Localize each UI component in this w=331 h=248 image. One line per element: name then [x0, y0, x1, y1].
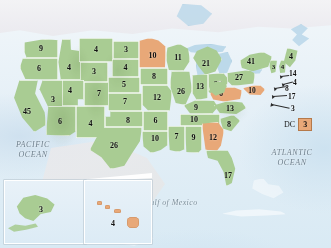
state-value-pennsylvania: 27	[235, 74, 243, 82]
delaware-callout[interactable]: 3	[291, 104, 295, 113]
dc-label: DC	[284, 120, 295, 129]
state-value-maine: 4	[289, 53, 293, 61]
dc-badge[interactable]: DC 3	[284, 118, 312, 131]
state-value-missouri: 12	[153, 94, 161, 102]
pacific-ocean-label: PACIFIC OCEAN	[2, 140, 64, 160]
state-value-michigan: 21	[202, 60, 210, 68]
state-value-maryland: 10	[248, 87, 256, 95]
state-alabama[interactable]: 9	[185, 126, 202, 153]
state-value-vermont: 3	[272, 64, 276, 71]
state-value-tennessee: 10	[190, 116, 198, 124]
delaware-value: 3	[291, 104, 295, 113]
rhode-island-callout[interactable]: 4	[293, 78, 297, 87]
state-value-nevada: 3	[51, 96, 55, 104]
state-value-arizona: 6	[58, 118, 62, 126]
state-value-nebraska: 5	[122, 81, 126, 89]
state-value-kansas: 7	[123, 98, 127, 106]
state-value-california: 45	[23, 108, 31, 116]
state-south-dakota[interactable]: 4	[112, 59, 139, 77]
state-iowa[interactable]: 8	[140, 68, 168, 85]
state-value-wisconsin: 11	[174, 54, 182, 62]
us-map: 9 6 45 3 4 4 3 4 6 4 7 3 4 5 7 8 26	[0, 0, 331, 248]
state-value-idaho: 4	[67, 64, 71, 72]
alaska-inset[interactable]: 3	[4, 180, 86, 244]
hawaii-island-kauai	[97, 201, 102, 205]
aleutian-islands-shape	[8, 221, 38, 233]
state-value-oregon: 6	[37, 65, 41, 73]
state-arkansas[interactable]: 6	[143, 111, 168, 131]
state-value-indiana: 13	[196, 83, 204, 91]
state-oklahoma[interactable]: 8	[105, 111, 143, 127]
state-value-mississippi: 7	[175, 133, 179, 141]
state-value-alaska: 3	[39, 205, 43, 214]
state-mississippi[interactable]: 7	[168, 126, 185, 152]
state-value-alabama: 9	[192, 134, 196, 142]
state-value-south-carolina: 8	[227, 121, 231, 129]
hawaii-island-maui	[114, 209, 121, 213]
state-value-florida: 17	[224, 172, 232, 180]
state-value-louisiana: 10	[151, 135, 159, 143]
hawaii-island-big-island	[127, 217, 139, 228]
state-value-new-york: 41	[247, 58, 255, 66]
state-value-georgia: 12	[209, 134, 217, 142]
alaska-shape	[15, 193, 61, 227]
state-value-minnesota: 10	[149, 52, 157, 60]
state-value-texas: 26	[110, 142, 118, 150]
massachusetts-value: 14	[289, 69, 297, 78]
state-missouri[interactable]: 12	[142, 85, 172, 111]
massachusetts-callout[interactable]: 14	[289, 69, 297, 78]
state-washington[interactable]: 9	[24, 39, 58, 58]
state-value-wyoming: 3	[92, 68, 96, 76]
state-value-oklahoma: 8	[126, 117, 130, 125]
dc-value: 3	[298, 118, 312, 131]
state-value-illinois: 26	[177, 88, 185, 96]
state-arizona[interactable]: 6	[46, 106, 76, 136]
state-nebraska[interactable]: 5	[108, 77, 140, 93]
state-value-utah: 4	[68, 87, 72, 95]
hawaii-inset[interactable]: 4	[84, 180, 152, 244]
gulf-of-mexico-label: Gulf of Mexico	[144, 198, 198, 207]
state-value-iowa: 8	[152, 73, 156, 81]
state-wyoming[interactable]: 3	[80, 62, 108, 82]
new-jersey-callout[interactable]: 17	[288, 92, 296, 101]
state-value-hawaii: 4	[111, 219, 115, 228]
state-value-arkansas: 6	[154, 117, 158, 125]
state-value-south-dakota: 4	[124, 64, 128, 72]
hawaii-island-oahu	[105, 205, 110, 209]
state-north-dakota[interactable]: 3	[113, 41, 139, 59]
state-value-new-mexico: 4	[89, 120, 93, 128]
state-value-north-dakota: 3	[124, 46, 128, 54]
state-montana[interactable]: 4	[79, 38, 113, 62]
state-value-montana: 4	[94, 46, 98, 54]
rhode-island-value: 4	[293, 78, 297, 87]
state-oregon[interactable]: 6	[20, 58, 58, 80]
state-value-washington: 9	[39, 45, 43, 53]
atlantic-ocean-label: ATLANTIC OCEAN	[256, 148, 328, 168]
state-value-new-hampshire: 4	[281, 64, 285, 71]
state-kansas[interactable]: 7	[108, 93, 142, 111]
state-value-colorado: 7	[97, 90, 101, 98]
new-jersey-value: 17	[288, 92, 296, 101]
state-value-north-carolina: 13	[226, 105, 234, 113]
state-value-kentucky: 9	[194, 104, 198, 112]
